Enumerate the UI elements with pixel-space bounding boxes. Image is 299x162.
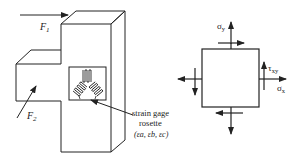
bottom-stress-arrows [216, 107, 243, 134]
rosette-leader-arrow [91, 100, 133, 115]
rosette-label-line1: strain gage [132, 108, 169, 118]
left-stress-arrows [178, 68, 202, 95]
stress-element-square [202, 49, 259, 107]
tau-xy-label: τxy [268, 63, 279, 74]
strain-gage-rosette [69, 67, 106, 100]
bracket-body [16, 11, 125, 152]
sigma-y-label: σy [217, 21, 226, 32]
rosette-label-line2: rosette [139, 118, 162, 128]
force-f1-label: F1 [39, 21, 50, 34]
force-f2-label: F2 [26, 110, 37, 123]
diagram-canvas: F1 F2 strain gage rosette (εa, εb, εc) σ… [0, 0, 299, 162]
sigma-x-label: σx [277, 83, 286, 94]
rosette-label-line3: (εa, εb, εc) [134, 130, 169, 139]
